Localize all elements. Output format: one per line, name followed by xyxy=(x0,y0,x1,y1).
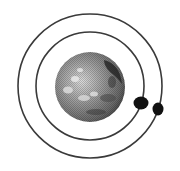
planet-moons-diagram xyxy=(0,0,180,171)
planet xyxy=(55,52,125,122)
diagram-canvas xyxy=(0,0,180,171)
outer-moon xyxy=(153,103,164,116)
inner-moon xyxy=(134,97,149,110)
